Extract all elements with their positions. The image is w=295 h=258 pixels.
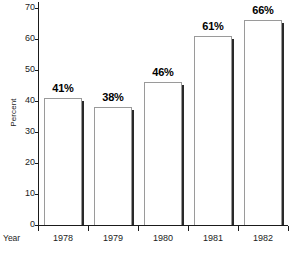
x-tick-mark — [88, 226, 89, 231]
x-axis-line — [38, 225, 288, 226]
x-tick-mark — [188, 226, 189, 231]
x-axis-title: Year — [3, 233, 20, 243]
x-tick-mark — [138, 226, 139, 231]
bar-value-label: 61% — [183, 20, 243, 32]
bar — [194, 36, 232, 225]
bar-chart: Percent 010203040506070 41%38%46%61%66% … — [0, 0, 295, 258]
x-axis-category-label: 1982 — [233, 233, 293, 243]
bar-value-label: 38% — [83, 91, 143, 103]
bar-value-label: 46% — [133, 66, 193, 78]
bar — [244, 20, 282, 225]
bar — [44, 98, 82, 225]
x-tick-mark — [238, 226, 239, 231]
plot-area: 41%38%46%61%66% — [0, 0, 295, 258]
x-tick-mark — [288, 226, 289, 231]
bar — [144, 82, 182, 225]
bar-value-label: 66% — [233, 4, 293, 16]
x-tick-mark — [38, 226, 39, 231]
bar — [94, 107, 132, 225]
